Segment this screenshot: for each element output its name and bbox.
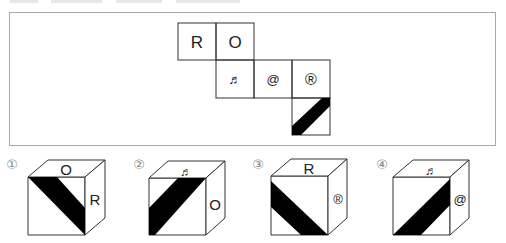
option-3-top-symbol: R	[304, 160, 315, 177]
option-4-top-symbol: ♬	[425, 164, 437, 178]
net-symbol-o: O	[228, 33, 241, 52]
option-2-top-symbol: ♬	[180, 165, 192, 179]
option-4-cube[interactable]: ♬ @	[393, 160, 469, 235]
registered-icon: ®	[305, 71, 317, 88]
option-1-right-symbol: R	[90, 191, 101, 208]
at-sign-icon: @	[266, 72, 279, 87]
option-1-top-symbol: O	[60, 161, 72, 178]
music-note-icon: ♬	[229, 72, 242, 87]
option-2-cube[interactable]: ♬ O	[149, 161, 225, 235]
option-3-cube[interactable]: R ®	[271, 159, 347, 235]
option-2-right-symbol: O	[209, 196, 221, 213]
option-3-label: ③	[252, 157, 264, 172]
option-1-cube[interactable]: O R	[28, 160, 105, 235]
option-1-label: ①	[6, 157, 18, 172]
option-4-label: ④	[376, 157, 388, 172]
net-band-shape	[292, 98, 330, 135]
diagram-canvas: R O ♬ @ ® O R ① ♬ O ② R ® ③ ♬ @	[0, 0, 506, 243]
option-3-right-symbol: ®	[333, 192, 343, 207]
net-symbol-r: R	[191, 33, 203, 52]
option-2-label: ②	[133, 157, 145, 172]
option-4-right-symbol: @	[453, 192, 466, 207]
